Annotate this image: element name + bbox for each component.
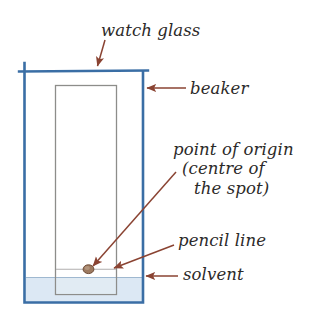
label-solvent: solvent <box>183 265 244 284</box>
label-pencil-line: pencil line <box>178 231 266 250</box>
chromatography-paper <box>56 86 117 295</box>
label-watch-glass: watch glass <box>101 21 200 40</box>
label-point-of-origin: point of origin (centre of the spot) <box>173 140 294 198</box>
label-point-of-origin-line1: point of origin <box>173 140 294 159</box>
label-point-of-origin-line3: the spot) <box>173 179 294 198</box>
label-point-of-origin-line2: (centre of <box>173 159 294 178</box>
label-beaker: beaker <box>190 79 248 98</box>
point-of-origin-spot <box>83 265 94 274</box>
arrow-point-of-origin <box>93 172 176 266</box>
watch-glass-lid <box>19 71 148 72</box>
arrow-watch-glass <box>98 40 106 66</box>
chromatography-diagram-figure: watch glass beaker point of origin (cent… <box>0 0 316 314</box>
